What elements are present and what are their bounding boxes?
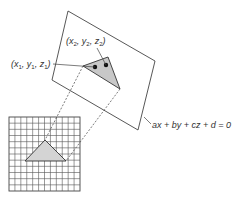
plane-triangle — [83, 57, 120, 89]
subscript: 2 — [74, 41, 77, 47]
subscript: 1 — [31, 64, 34, 70]
paren-close: ) — [103, 36, 106, 46]
projection-diagram — [0, 0, 243, 199]
paren-close: ) — [48, 59, 51, 69]
point-1-label: (x1, y1, z1) — [11, 59, 51, 72]
equation-leader — [144, 117, 151, 124]
plane-equation-label: ax + by + cz + d = 0 — [152, 120, 231, 130]
point-2-label: (x2, y2, z2) — [66, 36, 106, 49]
subscript: 2 — [86, 41, 89, 47]
subscript: 1 — [19, 64, 22, 70]
